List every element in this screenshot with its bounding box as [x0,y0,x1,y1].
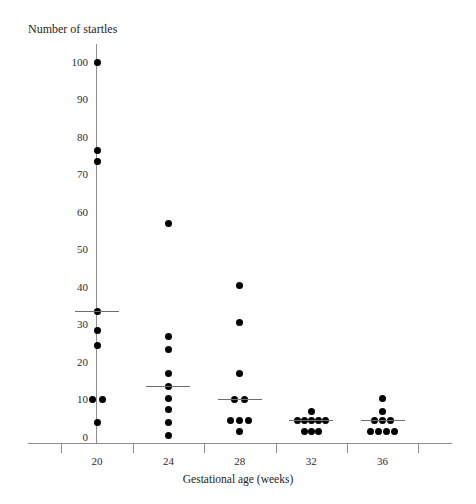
y-axis-tick-label: 100 [52,57,88,68]
x-axis-tick-mark [418,444,419,453]
data-point [236,428,243,435]
data-point [94,59,101,66]
data-point [301,428,308,435]
x-axis-line [28,443,452,444]
y-axis-tick-label: 0 [52,432,88,443]
x-axis-tick-mark [276,444,277,453]
data-point [165,395,172,402]
data-point [94,342,101,349]
median-line [218,399,262,400]
data-point [99,396,106,403]
data-point [367,428,374,435]
median-line [146,386,190,387]
x-axis-title: Gestational age (weeks) [0,473,476,485]
data-point [379,395,386,402]
data-point [165,406,172,413]
data-point [236,370,243,377]
data-point [89,396,96,403]
y-axis-tick-label: 20 [52,357,88,368]
median-line [289,420,333,421]
dot-plot-chart: Number of startles 100908070605040302010… [0,0,476,504]
data-point [391,428,398,435]
data-point [227,417,234,424]
x-axis-tick-mark [133,444,134,453]
x-axis-tick-label: 36 [363,455,403,467]
y-axis-tick-label: 60 [52,207,88,218]
y-axis-tick-label: 70 [52,169,88,180]
y-axis-tick-label: 80 [52,132,88,143]
y-axis-tick-label: 90 [52,94,88,105]
data-point [375,428,382,435]
data-point [165,333,172,340]
data-point [236,417,243,424]
data-point [236,319,243,326]
x-axis-tick-label: 20 [77,455,117,467]
data-point [236,282,243,289]
data-point [94,327,101,334]
data-point [165,419,172,426]
data-point [165,370,172,377]
y-axis-tick-label: 50 [52,244,88,255]
median-line [361,420,405,421]
y-axis-line [96,44,97,444]
data-point [315,428,322,435]
y-axis-tick-label: 10 [52,394,88,405]
data-point [379,408,386,415]
data-point [94,158,101,165]
x-axis-tick-mark [347,444,348,453]
plot-area: 1009080706050403020100 2024283236 [0,0,476,504]
data-point [308,428,315,435]
y-axis-tick-label: 40 [52,282,88,293]
x-axis-tick-label: 24 [148,455,188,467]
x-axis-tick-label: 32 [291,455,331,467]
data-point [94,147,101,154]
data-point [165,346,172,353]
data-point [94,419,101,426]
data-point [165,432,172,439]
x-axis-tick-mark [61,444,62,453]
data-point [245,417,252,424]
data-point [308,408,315,415]
data-point [383,428,390,435]
y-axis-tick-label: 30 [52,319,88,330]
x-axis-tick-mark [204,444,205,453]
x-axis-tick-label: 28 [220,455,260,467]
median-line [75,311,119,312]
data-point [165,220,172,227]
